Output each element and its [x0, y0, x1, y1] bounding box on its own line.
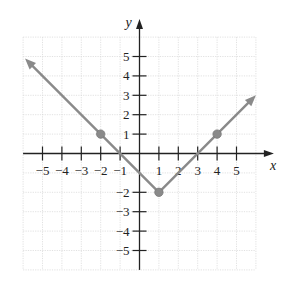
x-tick-label: −1: [113, 163, 127, 178]
x-tick-label: −2: [94, 163, 108, 178]
y-tick-label: −5: [116, 243, 130, 258]
y-tick-label: −2: [116, 185, 130, 200]
y-tick-label: 4: [123, 68, 130, 83]
x-axis-label: x: [269, 158, 277, 173]
y-tick-label: 1: [123, 127, 130, 142]
y-tick-label: −4: [116, 224, 130, 239]
data-point: [97, 130, 105, 138]
x-tick-label: 4: [214, 163, 221, 178]
x-tick-label: 3: [194, 163, 201, 178]
x-tick-label: −5: [36, 163, 50, 178]
data-point: [213, 130, 221, 138]
x-tick-label: 5: [233, 163, 240, 178]
y-axis-arrow-icon: [136, 19, 143, 29]
x-tick-label: 1: [156, 163, 163, 178]
y-tick-label: 2: [123, 107, 130, 122]
x-tick-label: −3: [74, 163, 88, 178]
y-tick-label: −3: [116, 204, 130, 219]
y-tick-label: 5: [123, 49, 130, 64]
x-axis-arrow-icon: [264, 150, 274, 157]
data-point: [155, 188, 163, 196]
graph-plot: x y −5−4−3−2−11234554321−2−3−4−5: [0, 0, 291, 289]
axes: x y: [23, 15, 277, 270]
y-axis-label: y: [124, 15, 133, 30]
x-tick-label: −4: [55, 163, 69, 178]
y-tick-label: 3: [123, 88, 130, 103]
